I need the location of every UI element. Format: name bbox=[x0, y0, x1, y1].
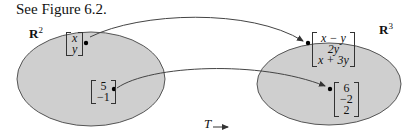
vector-6-neg2-2: 6 −2 2 bbox=[334, 82, 359, 117]
vector-5-neg1: 5 −1 bbox=[91, 80, 116, 104]
vector-xy: x y bbox=[66, 32, 83, 56]
point-xy bbox=[84, 41, 88, 45]
label-r2: R2 bbox=[29, 25, 43, 42]
label-r3: R3 bbox=[379, 21, 393, 38]
point-image-xy bbox=[306, 41, 310, 45]
vector-image-xy: x − y 2y x + 3y bbox=[312, 32, 355, 67]
point-image-5-1 bbox=[328, 87, 332, 91]
map-label-t: T bbox=[204, 116, 211, 132]
domain-ellipse bbox=[17, 32, 165, 126]
